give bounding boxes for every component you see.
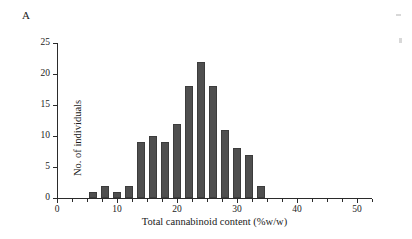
y-tick-label: 5 — [45, 160, 50, 173]
bar — [257, 186, 265, 198]
bar — [89, 192, 97, 198]
x-tick-minor — [87, 199, 88, 202]
y-tick-mark — [53, 74, 57, 75]
bar — [137, 142, 145, 198]
y-tick-label: 20 — [41, 67, 51, 80]
x-tick-minor — [282, 199, 283, 202]
y-tick-mark — [53, 167, 57, 168]
x-tick-minor — [162, 199, 163, 202]
x-tick-minor — [327, 199, 328, 202]
y-tick-label: 25 — [41, 36, 51, 49]
bar — [233, 148, 241, 198]
x-tick-minor — [132, 199, 133, 202]
y-tick-label: 15 — [41, 98, 51, 111]
x-tick-minor — [102, 199, 103, 202]
bar — [221, 130, 229, 198]
y-tick-mark — [53, 136, 57, 137]
x-tick-minor — [222, 199, 223, 202]
bar — [197, 62, 205, 198]
x-tick-minor — [147, 199, 148, 202]
bar — [161, 142, 169, 198]
x-axis-line — [57, 198, 372, 199]
y-tick-label: 10 — [41, 129, 51, 142]
bar — [149, 136, 157, 198]
y-tick-mark — [53, 105, 57, 106]
y-tick-label: 0 — [45, 191, 50, 204]
bar — [209, 86, 217, 198]
x-tick-minor — [312, 199, 313, 202]
figure-panel-a: A 0510152025 01020304050 No. of individu… — [0, 0, 412, 239]
x-tick-minor — [342, 199, 343, 202]
bar — [101, 186, 109, 198]
scan-artifact — [399, 38, 402, 43]
bar — [245, 155, 253, 198]
bar — [185, 86, 193, 198]
plot-area: 0510152025 01020304050 No. of individual… — [57, 43, 372, 199]
bar — [173, 124, 181, 198]
x-tick-minor — [267, 199, 268, 202]
y-tick-mark — [53, 43, 57, 44]
x-tick-minor — [252, 199, 253, 202]
x-tick-minor — [207, 199, 208, 202]
panel-label: A — [22, 9, 30, 21]
bar — [125, 186, 133, 198]
y-axis-title: No. of individuals — [71, 73, 85, 203]
bar — [113, 192, 121, 198]
x-axis-title: Total cannabinoid content (%w/w) — [57, 215, 372, 229]
x-tick-minor — [372, 199, 373, 202]
x-tick-minor — [192, 199, 193, 202]
scan-artifact — [396, 14, 401, 16]
y-axis-line — [57, 43, 58, 199]
